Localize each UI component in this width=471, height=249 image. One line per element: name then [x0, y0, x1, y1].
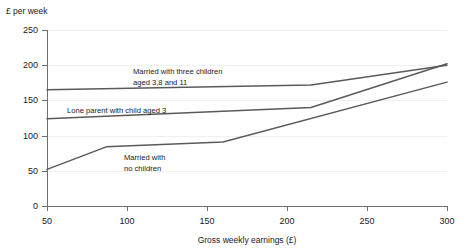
annotation-three-children-line2: aged 3,8 and 11: [133, 78, 187, 87]
annotation-no-children-line2: no children: [124, 164, 161, 173]
annotation-three-children-line1: Married with three children: [133, 67, 222, 76]
y-tick-label-100: 100: [23, 131, 38, 141]
x-tick-label-300: 300: [439, 216, 454, 226]
y-tick-label-50: 50: [28, 166, 38, 176]
x-axis-title: Gross weekly earnings (£): [198, 235, 297, 245]
y-tick-label-150: 150: [23, 95, 38, 105]
annotation-lone-parent: Lone parent with child aged 3: [67, 106, 166, 115]
x-tick-label-200: 200: [279, 216, 294, 226]
x-tick-label-150: 150: [199, 216, 214, 226]
line-chart-figure: 250 200 150 100 50 0 50 100 150 200 250 …: [0, 0, 471, 249]
x-tick-label-50: 50: [42, 216, 52, 226]
x-tick-label-100: 100: [119, 216, 134, 226]
x-tick-label-250: 250: [359, 216, 374, 226]
chart-canvas: 250 200 150 100 50 0 50 100 150 200 250 …: [0, 0, 471, 249]
y-tick-label-200: 200: [23, 60, 38, 70]
annotation-no-children-line1: Married with: [124, 153, 165, 162]
y-axis-title: £ per week: [6, 6, 48, 16]
y-tick-label-0: 0: [33, 201, 38, 211]
chart-background: [0, 0, 471, 249]
y-tick-label-250: 250: [23, 25, 38, 35]
